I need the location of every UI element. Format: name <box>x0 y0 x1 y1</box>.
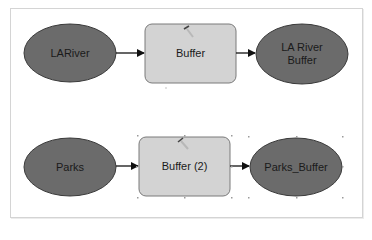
label-line-2: Buffer <box>287 54 316 67</box>
label-la-river-buffer: LA River Buffer <box>256 24 348 84</box>
label-buffer-2: Buffer (2) <box>139 137 230 196</box>
label-parks-buffer: Parks_Buffer <box>250 138 342 196</box>
label-line-1: LA River <box>281 41 323 54</box>
handle-dot <box>165 87 167 89</box>
label-buffer: Buffer <box>145 24 236 83</box>
label-parks: Parks <box>24 138 116 196</box>
label-lariver: LARiver <box>24 24 116 82</box>
